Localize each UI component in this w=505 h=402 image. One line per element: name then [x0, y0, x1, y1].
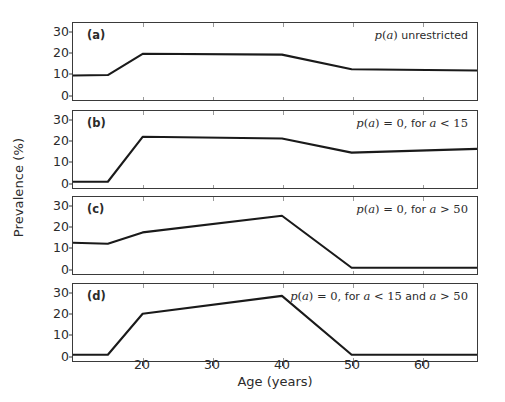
x-tick-mark-bottom: [423, 185, 424, 189]
x-axis-label: Age (years): [72, 374, 478, 389]
x-tick-mark-bottom: [423, 271, 424, 275]
plot-area: 0102030(b)p(a) = 0, for a < 15: [73, 111, 477, 188]
x-tick-mark-top: [283, 284, 284, 288]
x-tick-mark-top: [353, 197, 354, 201]
y-tick-label: 10: [53, 242, 69, 255]
x-tick-mark-bottom: [213, 97, 214, 101]
x-tick-mark-top: [423, 23, 424, 27]
y-tick-label: 0: [61, 263, 69, 276]
y-tick-mark: [69, 52, 73, 53]
subplot-panel-d: 0102030(d)p(a) = 0, for a < 15 and a > 5…: [72, 283, 478, 362]
panel-tag: (c): [87, 202, 104, 216]
x-tick-mark-top: [213, 284, 214, 288]
x-tick-mark-top: [143, 284, 144, 288]
y-tick-label: 30: [53, 286, 69, 299]
x-tick-mark-bottom: [353, 97, 354, 101]
y-tick-label: 30: [53, 113, 69, 126]
x-tick-mark-top: [283, 111, 284, 115]
y-tick-mark: [69, 226, 73, 227]
x-tick-mark-top: [213, 197, 214, 201]
y-tick-mark: [69, 313, 73, 314]
y-tick-label: 10: [53, 68, 69, 81]
x-tick-mark-top: [283, 197, 284, 201]
y-tick-label: 10: [53, 156, 69, 169]
plot-area: 0102030(d)p(a) = 0, for a < 15 and a > 5…: [73, 284, 477, 361]
x-tick-label: 60: [414, 357, 430, 372]
x-tick-mark-bottom: [213, 185, 214, 189]
y-tick-mark: [69, 292, 73, 293]
y-tick-mark: [69, 248, 73, 249]
y-tick-label: 0: [61, 350, 69, 363]
x-tick-label: 40: [274, 357, 290, 372]
subplot-panel-b: 0102030(b)p(a) = 0, for a < 15: [72, 110, 478, 189]
x-tick-mark-top: [283, 23, 284, 27]
x-tick-mark-bottom: [423, 97, 424, 101]
prevalence-line: [73, 296, 477, 355]
y-tick-label: 20: [53, 135, 69, 148]
x-tick-mark-bottom: [283, 97, 284, 101]
x-tick-mark-top: [353, 23, 354, 27]
x-tick-label: 30: [204, 357, 220, 372]
x-tick-mark-top: [423, 111, 424, 115]
panel-annotation: p(a) = 0, for a < 15: [356, 116, 468, 130]
y-tick-label: 20: [53, 221, 69, 234]
x-tick-mark-top: [143, 111, 144, 115]
x-tick-mark-top: [213, 111, 214, 115]
y-tick-mark: [69, 356, 73, 357]
plot-area: 0102030(a)p(a) unrestricted: [73, 23, 477, 100]
x-tick-mark-bottom: [283, 185, 284, 189]
y-axis-label: Prevalence (%): [11, 108, 26, 268]
panel-annotation: p(a) = 0, for a < 15 and a > 50: [290, 289, 468, 303]
x-tick-mark-top: [143, 23, 144, 27]
subplot-panel-c: 0102030(c)p(a) = 0, for a > 50: [72, 196, 478, 275]
panel-tag: (d): [87, 289, 106, 303]
x-tick-mark-top: [213, 23, 214, 27]
x-tick-mark-bottom: [353, 271, 354, 275]
x-tick-mark-top: [423, 284, 424, 288]
x-tick-label: 20: [134, 357, 150, 372]
prevalence-line: [73, 216, 477, 268]
x-tick-mark-bottom: [143, 271, 144, 275]
x-tick-label: 50: [344, 357, 360, 372]
y-tick-label: 0: [61, 89, 69, 102]
panel-tag: (b): [87, 116, 106, 130]
x-tick-mark-top: [353, 284, 354, 288]
y-tick-mark: [69, 335, 73, 336]
x-tick-mark-top: [423, 197, 424, 201]
y-tick-label: 30: [53, 25, 69, 38]
y-tick-mark: [69, 31, 73, 32]
y-tick-mark: [69, 205, 73, 206]
x-tick-mark-bottom: [143, 97, 144, 101]
y-tick-label: 0: [61, 177, 69, 190]
plot-area: 0102030(c)p(a) = 0, for a > 50: [73, 197, 477, 274]
x-tick-mark-top: [143, 197, 144, 201]
y-tick-mark: [69, 183, 73, 184]
panel-tag: (a): [87, 28, 105, 42]
y-tick-mark: [69, 162, 73, 163]
x-tick-mark-top: [353, 111, 354, 115]
y-tick-label: 10: [53, 329, 69, 342]
panel-annotation: p(a) unrestricted: [375, 28, 468, 42]
y-tick-label: 30: [53, 199, 69, 212]
panel-annotation: p(a) = 0, for a > 50: [356, 202, 468, 216]
y-tick-mark: [69, 74, 73, 75]
x-tick-mark-bottom: [143, 185, 144, 189]
x-tick-mark-bottom: [283, 271, 284, 275]
x-tick-mark-bottom: [213, 271, 214, 275]
figure-canvas: Prevalence (%) Age (years) 0102030(a)p(a…: [0, 0, 505, 402]
y-tick-label: 20: [53, 308, 69, 321]
y-tick-mark: [69, 119, 73, 120]
prevalence-line: [73, 54, 477, 76]
y-tick-mark: [69, 269, 73, 270]
y-tick-mark: [69, 95, 73, 96]
y-tick-label: 20: [53, 47, 69, 60]
y-tick-mark: [69, 140, 73, 141]
x-tick-mark-bottom: [353, 185, 354, 189]
prevalence-line: [73, 137, 477, 182]
subplot-panel-a: 0102030(a)p(a) unrestricted: [72, 22, 478, 101]
